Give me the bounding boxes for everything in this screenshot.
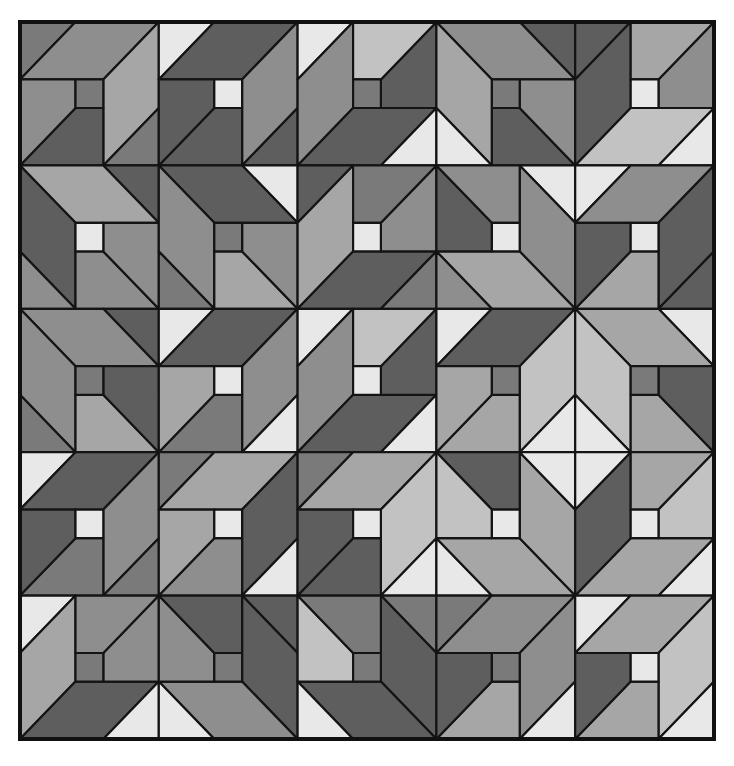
quilt-block xyxy=(159,22,298,165)
quilt-block xyxy=(298,309,437,452)
quilt-block xyxy=(436,309,575,452)
quilt-block xyxy=(298,596,437,739)
quilt-figure xyxy=(0,0,734,766)
quilt-piece-center xyxy=(76,366,104,395)
quilt-piece-center xyxy=(353,510,381,539)
quilt-piece-center xyxy=(631,366,659,395)
quilt-piece-center xyxy=(492,510,520,539)
quilt-block xyxy=(436,22,575,165)
quilt-block xyxy=(575,596,714,739)
quilt-block xyxy=(298,452,437,595)
quilt-block xyxy=(20,22,159,165)
quilt-piece-center xyxy=(631,79,659,108)
quilt-block xyxy=(159,309,298,452)
quilt-piece-center xyxy=(76,223,104,252)
quilt-piece-center xyxy=(76,510,104,539)
quilt-block xyxy=(436,165,575,308)
quilt-block xyxy=(575,165,714,308)
quilt-block xyxy=(159,165,298,308)
quilt-piece-center xyxy=(492,366,520,395)
quilt-block xyxy=(436,452,575,595)
quilt-block xyxy=(20,596,159,739)
quilt-piece-center xyxy=(353,79,381,108)
quilt-blocks xyxy=(20,22,714,739)
quilt-block xyxy=(159,452,298,595)
quilt-block xyxy=(575,452,714,595)
quilt-block xyxy=(298,22,437,165)
quilt-piece-center xyxy=(631,510,659,539)
quilt-block xyxy=(436,596,575,739)
quilt-block xyxy=(20,165,159,308)
quilt-piece-center xyxy=(76,653,104,682)
quilt-block xyxy=(20,309,159,452)
quilt-piece-center xyxy=(214,510,242,539)
quilt-piece-center xyxy=(492,79,520,108)
quilt-block xyxy=(575,22,714,165)
quilt-block xyxy=(20,452,159,595)
quilt-piece-center xyxy=(492,223,520,252)
quilt-piece-center xyxy=(631,653,659,682)
quilt-block xyxy=(159,596,298,739)
quilt-piece-center xyxy=(353,223,381,252)
quilt-piece-center xyxy=(631,223,659,252)
quilt-piece-center xyxy=(353,366,381,395)
quilt-piece-center xyxy=(492,653,520,682)
quilt-piece-center xyxy=(214,223,242,252)
quilt-piece-center xyxy=(353,653,381,682)
quilt-piece-center xyxy=(214,366,242,395)
quilt-piece-center xyxy=(214,79,242,108)
quilt-block xyxy=(575,309,714,452)
quilt-block xyxy=(298,165,437,308)
quilt-piece-center xyxy=(214,653,242,682)
quilt-piece-center xyxy=(76,79,104,108)
